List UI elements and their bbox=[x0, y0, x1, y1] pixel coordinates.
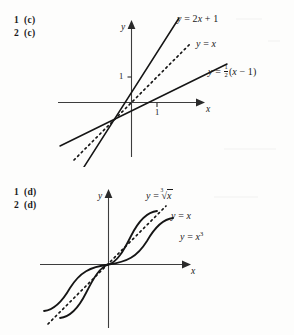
y-tick-label-1: 1 bbox=[119, 71, 123, 81]
y-axis-arrow bbox=[105, 189, 113, 198]
figure-c: 1 (c) 2 (c) 1 1 y x y = 2x + bbox=[0, 0, 294, 167]
equation-label-half-x-minus-1: y = 12(x − 1) bbox=[208, 64, 256, 79]
y-axis-arrow bbox=[128, 20, 136, 29]
x-tick-label-1: 1 bbox=[155, 107, 159, 117]
eqn-exponent: 3 bbox=[200, 230, 203, 237]
eqn-const: 1 bbox=[213, 13, 218, 24]
eqn-fraction-one-half: 12 bbox=[224, 64, 228, 79]
equation-label-identity: y = x bbox=[196, 38, 216, 49]
x-axis-arrow bbox=[182, 261, 191, 269]
eqn-rhs: x bbox=[187, 210, 192, 221]
y-axis-label: y bbox=[121, 22, 125, 32]
radical-index: 3 bbox=[161, 187, 164, 193]
plot-c bbox=[0, 0, 294, 167]
figure-page: 1 (c) 2 (c) 1 1 y x y = 2x + bbox=[0, 0, 294, 335]
x-axis-label: x bbox=[191, 266, 195, 276]
x-axis-arrow bbox=[196, 99, 205, 107]
equation-label-cube-root: y = 3√x bbox=[146, 190, 173, 201]
x-axis-label: x bbox=[206, 104, 210, 114]
figure-d: 1 (d) 2 (d) y x y = 3√x y = x bbox=[0, 168, 294, 335]
eqn-close-paren: ) bbox=[253, 66, 256, 77]
radicand: x bbox=[167, 189, 173, 201]
eqn-rhs: x bbox=[212, 38, 217, 49]
equation-label-2x-plus-1: y = 2x + 1 bbox=[177, 13, 218, 24]
curve-line-half-x-minus-1 bbox=[60, 64, 227, 146]
equation-label-identity: y = x bbox=[171, 210, 191, 221]
equation-label-cubic: y = x3 bbox=[180, 231, 203, 242]
radical-cube-root: 3√x bbox=[162, 190, 173, 201]
y-axis-label: y bbox=[98, 191, 102, 201]
fraction-denominator: 2 bbox=[224, 72, 228, 79]
